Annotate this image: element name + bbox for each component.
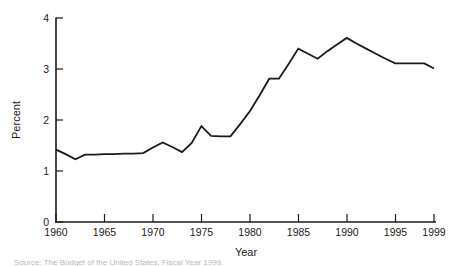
x-tick-label-1980: 1980 [238,226,262,238]
y-tick-label-2: 2 [43,114,49,126]
source-caption: Source: The Budget of the United States,… [14,258,223,266]
y-axis-title: Percent [10,101,22,139]
x-axis-title: Year [235,246,258,258]
y-tick-label-4: 4 [43,12,49,24]
x-tick-label-1975: 1975 [190,226,214,238]
x-tick-label-1999: 1999 [422,226,446,238]
x-tick-label-1985: 1985 [287,226,311,238]
y-tick-label-1: 1 [43,165,49,177]
x-tick-label-1990: 1990 [335,226,359,238]
x-tick-label-1960: 1960 [44,226,68,238]
x-tick-label-1970: 1970 [141,226,165,238]
x-tick-label-1965: 1965 [93,226,117,238]
x-tick-labels: 1960 1965 1970 1975 1980 1985 1990 1995 … [44,226,446,238]
y-tick-label-3: 3 [43,63,49,75]
x-tick-label-1995: 1995 [384,226,408,238]
line-chart-figure: 4 3 2 1 0 1960 1965 1970 1975 1980 1985 … [0,0,460,266]
